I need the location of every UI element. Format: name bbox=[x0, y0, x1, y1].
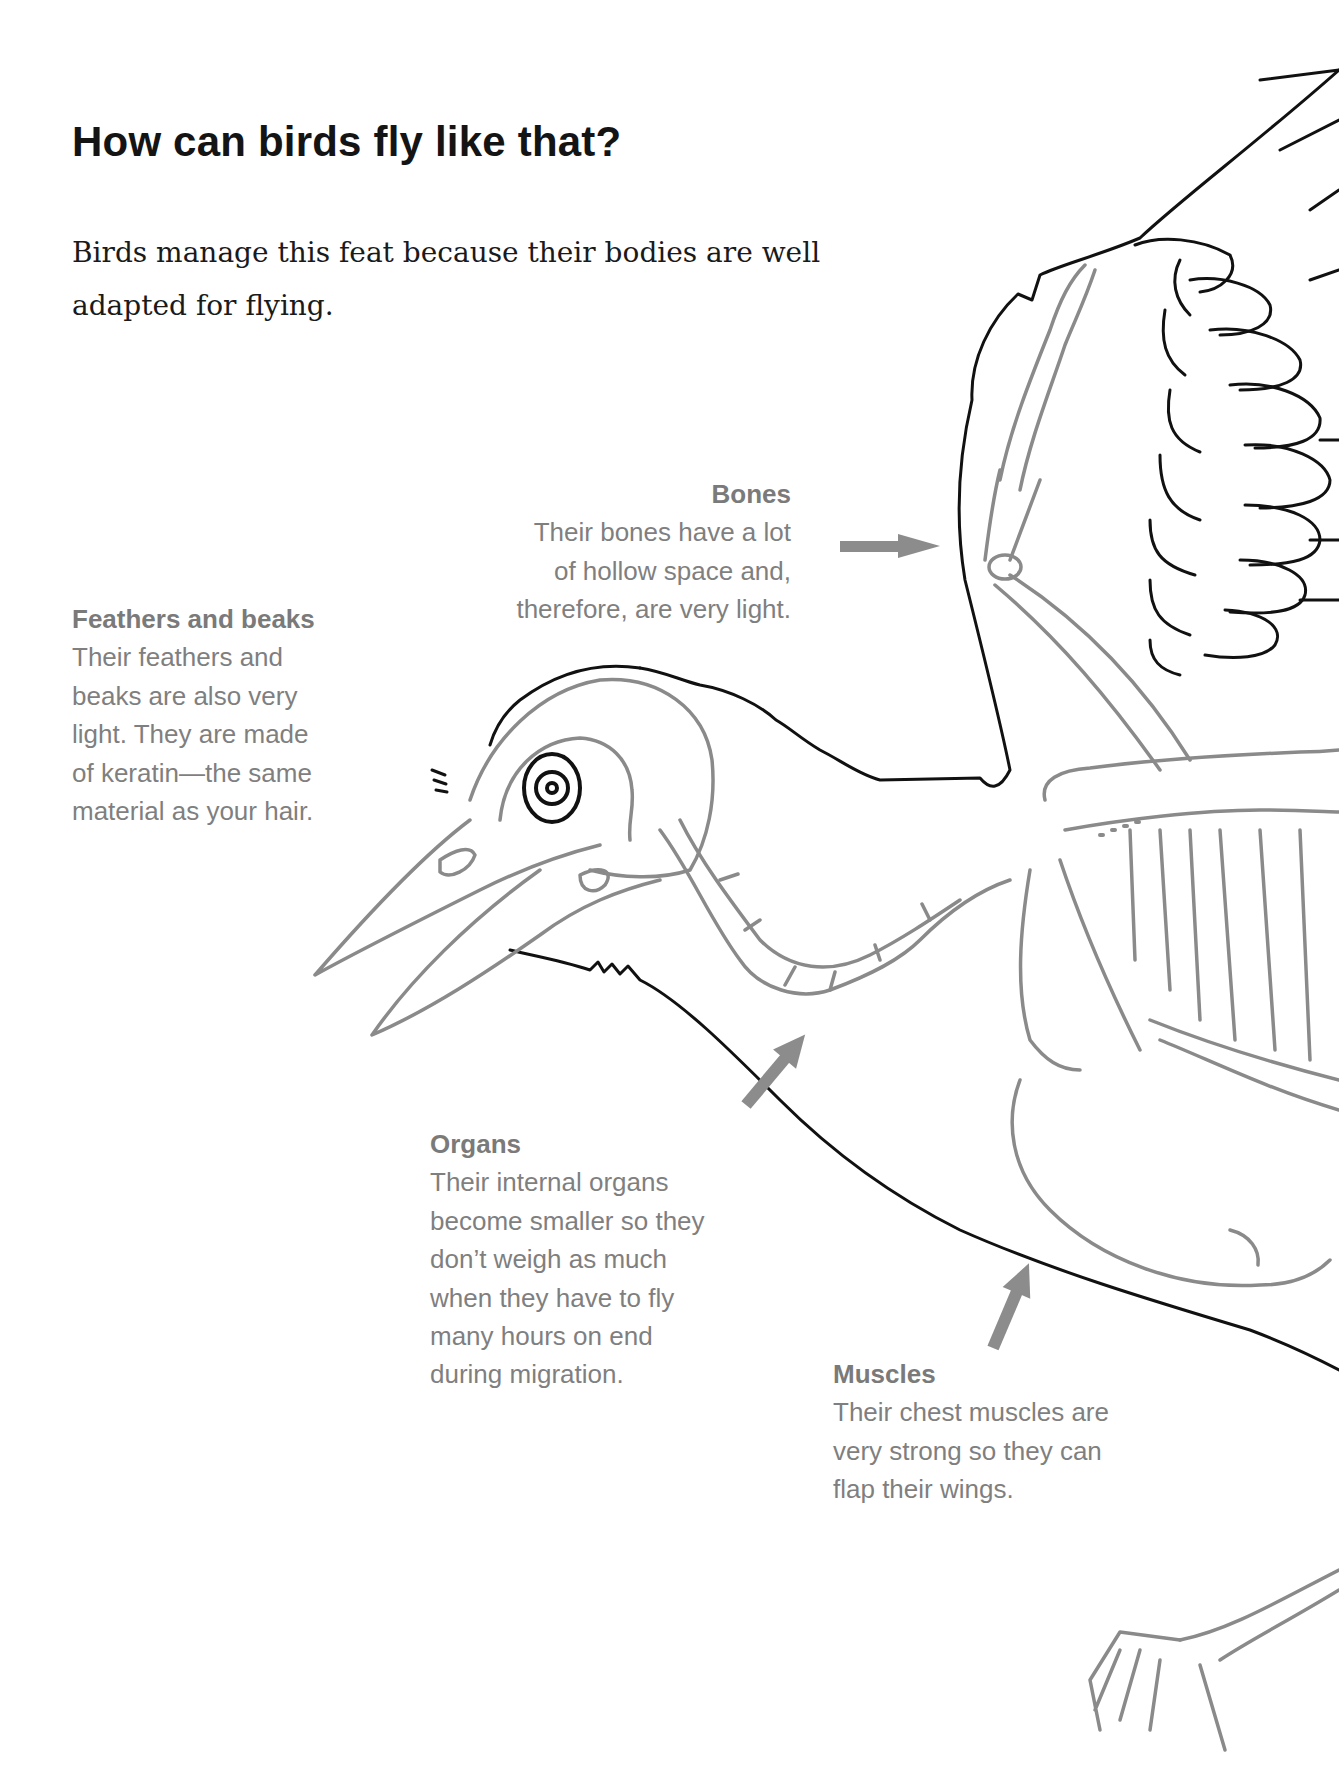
bones-arrow-icon bbox=[840, 534, 940, 558]
callout-line: Their feathers and bbox=[72, 638, 315, 676]
callout-line: many hours on end bbox=[430, 1317, 705, 1355]
callout-heading: Muscles bbox=[833, 1355, 1109, 1393]
wing-feathers bbox=[1135, 70, 1339, 675]
bird-anatomy-illustration bbox=[0, 0, 1339, 1776]
callout-bones: Bones Their bones have a lot of hollow s… bbox=[430, 475, 791, 629]
callout-line: of keratin—the same bbox=[72, 754, 315, 792]
callout-heading: Bones bbox=[430, 475, 791, 513]
callout-line: light. They are made bbox=[72, 715, 315, 753]
callout-line: therefore, are very light. bbox=[430, 590, 791, 628]
callout-line: flap their wings. bbox=[833, 1470, 1109, 1508]
callout-line: don’t weigh as much bbox=[430, 1240, 705, 1278]
callout-feathers-and-beaks: Feathers and beaks Their feathers and be… bbox=[72, 600, 315, 830]
callout-heading: Feathers and beaks bbox=[72, 600, 315, 638]
callout-line: Their bones have a lot bbox=[430, 513, 791, 551]
callout-line: Their chest muscles are bbox=[833, 1393, 1109, 1431]
eye-icon bbox=[524, 754, 580, 822]
callout-line: during migration. bbox=[430, 1355, 705, 1393]
callout-line: when they have to fly bbox=[430, 1279, 705, 1317]
callout-line: become smaller so they bbox=[430, 1202, 705, 1240]
callout-line: of hollow space and, bbox=[430, 552, 791, 590]
callout-line: beaks are also very bbox=[72, 677, 315, 715]
callout-line: very strong so they can bbox=[833, 1432, 1109, 1470]
muscles-arrow-icon bbox=[979, 1257, 1043, 1353]
page: How can birds fly like that? Birds manag… bbox=[0, 0, 1339, 1776]
organs-arrow-icon bbox=[735, 1025, 817, 1115]
callout-muscles: Muscles Their chest muscles are very str… bbox=[833, 1355, 1109, 1509]
callout-line: Their internal organs bbox=[430, 1163, 705, 1201]
callout-line: material as your hair. bbox=[72, 792, 315, 830]
callout-organs: Organs Their internal organs become smal… bbox=[430, 1125, 705, 1394]
callout-heading: Organs bbox=[430, 1125, 705, 1163]
